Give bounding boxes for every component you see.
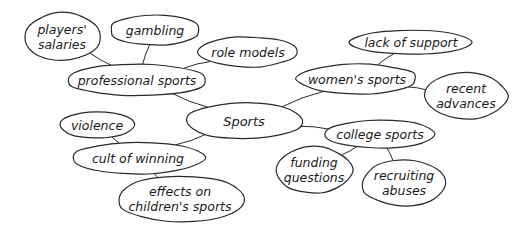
edge-sports-womens	[281, 91, 323, 107]
node-recruiting: recruitingabuses	[362, 160, 445, 206]
node-lack-support-label: lack of support	[364, 35, 458, 50]
node-childrens: effects onchildren's sports	[119, 176, 244, 221]
node-violence: violence	[60, 112, 135, 138]
edge-sports-cult	[176, 134, 206, 144]
node-womens: women's sports	[296, 64, 416, 94]
node-sports-label: Sports	[223, 114, 265, 129]
node-childrens-label: children's sports	[129, 199, 232, 214]
node-professional: professional sports	[68, 64, 205, 95]
mind-map: Sportsprofessional sportsplayers'salarie…	[0, 0, 532, 230]
node-professional-label: professional sports	[77, 73, 197, 88]
node-college-label: college sports	[336, 127, 424, 142]
node-salaries-label: players'	[36, 22, 86, 37]
node-role-models-label: role models	[211, 45, 285, 60]
edge-college-recruiting	[387, 148, 393, 161]
node-recruiting-label: recruiting	[374, 168, 435, 183]
node-funding-label: funding	[290, 155, 338, 170]
node-womens-label: women's sports	[308, 72, 407, 87]
edge-womens-recent-advances	[408, 87, 427, 90]
node-childrens-label: effects on	[149, 184, 211, 199]
edge-cult-violence	[112, 137, 119, 143]
edge-professional-salaries	[90, 53, 111, 65]
edge-womens-lack-support	[378, 54, 395, 65]
edge-college-funding	[342, 147, 357, 155]
node-salaries: players'salaries	[25, 12, 100, 60]
node-college: college sports	[325, 120, 435, 148]
mind-map-nodes: Sportsprofessional sportsplayers'salarie…	[25, 12, 508, 222]
node-gambling-label: gambling	[126, 23, 185, 38]
node-role-models: role models	[198, 37, 298, 67]
node-recent-advances-label: advances	[436, 96, 496, 111]
node-salaries-label: salaries	[38, 37, 87, 52]
node-funding: fundingquestions	[276, 146, 353, 193]
node-recruiting-label: abuses	[382, 183, 427, 198]
edge-sports-college	[299, 126, 328, 129]
node-violence-label: violence	[71, 118, 123, 133]
edge-sports-professional	[173, 94, 208, 107]
node-cult-label: cult of winning	[92, 151, 184, 166]
edge-professional-role-models	[184, 62, 210, 69]
node-recent-advances-label: recent	[446, 81, 487, 96]
node-recent-advances: recentadvances	[425, 72, 509, 119]
node-funding-label: questions	[284, 170, 345, 185]
node-gambling: gambling	[111, 15, 198, 45]
node-cult: cult of winning	[73, 142, 205, 174]
edge-professional-gambling	[143, 45, 150, 64]
node-sports: Sports	[187, 103, 303, 139]
node-lack-support: lack of support	[349, 30, 472, 54]
